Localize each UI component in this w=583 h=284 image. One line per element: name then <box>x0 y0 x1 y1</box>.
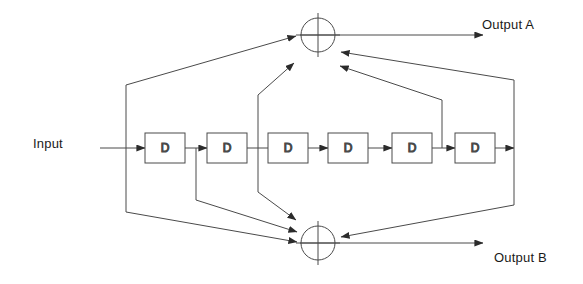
tap-d5-to-xor-top <box>340 66 442 100</box>
register-label-6: D <box>471 141 480 155</box>
xor-adder-bottom <box>296 221 340 265</box>
tap-d3-to-xor-bottom <box>258 192 296 220</box>
register-label-3: D <box>284 141 293 155</box>
tap-right-to-xor-bottom <box>341 205 514 237</box>
input-label: Input <box>33 136 63 151</box>
tap-left-to-xor-top <box>126 36 296 85</box>
xor-adder-top <box>296 13 340 57</box>
register-label-5: D <box>408 141 417 155</box>
lfsr-diagram: D D D D D D Input Output A Output B <box>0 0 583 284</box>
tap-left-to-xor-bottom <box>126 212 297 242</box>
tap-right-to-xor-top <box>341 52 514 80</box>
output-a-label: Output A <box>482 17 534 32</box>
register-label-1: D <box>161 141 170 155</box>
schematic-canvas: D D D D D D <box>0 0 583 284</box>
tap-d3-to-xor-top <box>258 63 294 95</box>
output-b-label: Output B <box>494 250 547 265</box>
register-label-2: D <box>223 141 232 155</box>
register-label-4: D <box>344 141 353 155</box>
